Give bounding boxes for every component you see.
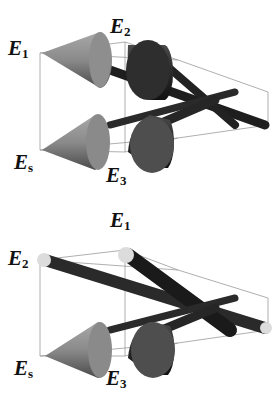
label-e3: E3 [106, 165, 127, 187]
cone-es [45, 322, 112, 378]
cone-e3 [128, 115, 174, 173]
cone-e2 [126, 40, 173, 100]
label-e1: E1 [110, 210, 131, 232]
label-es: Es [14, 152, 33, 174]
cone-e1 [42, 32, 112, 88]
label-e2: E2 [110, 16, 131, 38]
label-e2: E2 [8, 248, 29, 270]
panel-top: E1 E2 Es E3 [0, 0, 280, 200]
cap-e2 [37, 253, 51, 267]
panel-bottom: E1 E2 Es E3 [0, 200, 280, 399]
label-es: Es [14, 358, 33, 380]
label-e3: E3 [106, 368, 127, 390]
cap-far [260, 322, 272, 334]
cap-e1 [118, 247, 134, 263]
vector-diagram-bottom [0, 200, 280, 399]
cone-es [42, 114, 110, 170]
cone-e3 [128, 322, 175, 378]
label-e1: E1 [8, 38, 29, 60]
vector-diagram-top [0, 0, 280, 200]
